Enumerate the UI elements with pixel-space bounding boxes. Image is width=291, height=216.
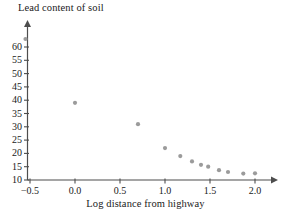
y-axis-tick-label: 15 [0, 161, 22, 172]
y-axis-tick-label: 30 [0, 121, 22, 132]
y-axis-tick-label: 20 [0, 147, 22, 158]
data-point [23, 37, 27, 41]
data-point [163, 146, 167, 150]
y-axis-tick-label: 35 [0, 108, 22, 119]
x-axis-tick-label: 0.5 [103, 185, 137, 196]
data-point [241, 172, 245, 176]
x-axis-tick-label: −0.5 [13, 185, 47, 196]
data-point [226, 170, 230, 174]
y-axis-tick-label: 50 [0, 68, 22, 79]
scatter-plot-canvas [0, 0, 291, 216]
x-axis-tick-label: 0.0 [58, 185, 92, 196]
x-axis-label: Log distance from highway [0, 198, 291, 209]
x-axis-tick-label: 2.0 [238, 185, 272, 196]
y-axis-tick-label: 55 [0, 54, 22, 65]
y-axis-tick-label: 45 [0, 81, 22, 92]
data-point [190, 159, 194, 163]
y-axis-tick-label: 25 [0, 134, 22, 145]
data-point [206, 165, 210, 169]
data-point [253, 171, 257, 175]
data-point [217, 168, 221, 172]
x-axis-tick-label: 1.0 [148, 185, 182, 196]
data-point [136, 122, 140, 126]
chart-figure: Lead content of soil Log distance from h… [0, 0, 291, 216]
data-point [199, 163, 203, 167]
y-axis-tick-label: 40 [0, 94, 22, 105]
data-point [73, 101, 77, 105]
y-axis-tick-label: 60 [0, 41, 22, 52]
y-axis-tick-label: 10 [0, 174, 22, 185]
x-axis-tick-label: 1.5 [193, 185, 227, 196]
data-point [178, 154, 182, 158]
